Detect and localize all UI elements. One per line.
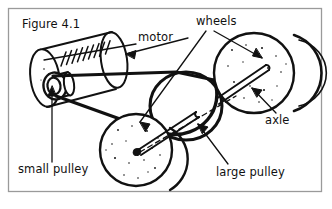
label-axle: axle: [265, 113, 290, 127]
label-wheels: wheels: [196, 14, 237, 28]
label-motor: motor: [138, 30, 173, 44]
diagram-canvas: Figure 4.1 motor wheels axle large pulle…: [0, 0, 332, 209]
label-large-pulley: large pulley: [216, 165, 285, 179]
cutoff-caption-text: [6, 198, 326, 209]
figure-title: Figure 4.1: [22, 17, 80, 31]
label-small-pulley: small pulley: [18, 162, 88, 176]
figure-diagram: Figure 4.1 motor wheels axle large pulle…: [0, 0, 332, 209]
